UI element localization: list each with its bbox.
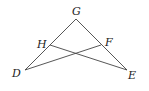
triangle-diagram: G H F D E — [0, 0, 149, 91]
segment-GD — [25, 19, 76, 70]
label-F: F — [104, 36, 113, 49]
label-G: G — [72, 5, 81, 18]
segment-GE — [76, 19, 127, 70]
label-E: E — [127, 69, 136, 82]
label-D: D — [11, 67, 21, 80]
label-H: H — [36, 38, 47, 51]
